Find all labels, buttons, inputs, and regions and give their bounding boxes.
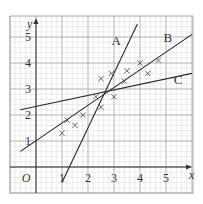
line-label-a: A (111, 33, 121, 48)
x-tick-label: 5 (163, 171, 169, 185)
y-axis-arrow-icon (34, 18, 39, 24)
data-points (59, 58, 160, 136)
cross-marker-icon (93, 94, 98, 99)
y-tick-label: 1 (25, 134, 31, 148)
y-axis-label: y (26, 17, 33, 31)
cross-marker-icon (124, 68, 129, 73)
x-axis-label: x (188, 168, 195, 182)
scatter-chart: ABC 1234512345Oxy (0, 0, 203, 204)
x-tick-label: 3 (111, 171, 117, 185)
y-tick-label: 5 (25, 30, 31, 44)
origin-label: O (22, 171, 31, 185)
line-label-c: C (174, 72, 183, 87)
cross-marker-icon (156, 58, 161, 63)
line-a (62, 24, 137, 183)
x-tick-label: 2 (85, 171, 91, 185)
cross-marker-icon (98, 105, 103, 110)
x-tick-label: 1 (59, 171, 65, 185)
x-tick-label: 4 (137, 171, 143, 185)
line-label-b: B (163, 30, 172, 45)
y-tick-label: 3 (25, 82, 31, 96)
y-tick-label: 4 (25, 56, 31, 70)
y-tick-label: 2 (25, 108, 31, 122)
